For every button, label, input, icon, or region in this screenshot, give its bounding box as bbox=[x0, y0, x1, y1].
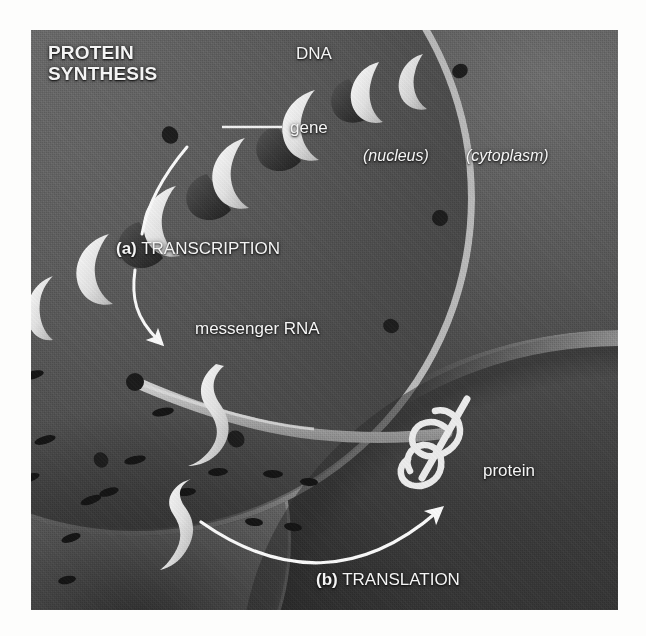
figure-page: PROTEIN SYNTHESIS DNA gene (nucleus) (cy… bbox=[0, 0, 646, 636]
diagram-panel: PROTEIN SYNTHESIS DNA gene (nucleus) (cy… bbox=[31, 30, 618, 610]
label-transcription-text: TRANSCRIPTION bbox=[141, 239, 280, 258]
label-translation-marker: (b) bbox=[316, 570, 338, 589]
label-cytoplasm: (cytoplasm) bbox=[466, 147, 549, 165]
figure-title: PROTEIN SYNTHESIS bbox=[48, 42, 158, 85]
label-translation-text: TRANSLATION bbox=[342, 570, 460, 589]
figure-title-line-1: PROTEIN bbox=[48, 42, 158, 63]
label-nucleus: (nucleus) bbox=[363, 147, 429, 165]
label-messenger-rna: messenger RNA bbox=[195, 319, 320, 339]
figure-title-line-2: SYNTHESIS bbox=[48, 63, 158, 84]
label-translation: (b) TRANSLATION bbox=[316, 570, 460, 590]
label-transcription-marker: (a) bbox=[116, 239, 137, 258]
label-gene: gene bbox=[290, 118, 328, 138]
label-transcription: (a) TRANSCRIPTION bbox=[116, 239, 280, 259]
halftone-grain-2 bbox=[31, 30, 618, 610]
label-dna: DNA bbox=[296, 44, 332, 64]
label-protein: protein bbox=[483, 461, 535, 481]
